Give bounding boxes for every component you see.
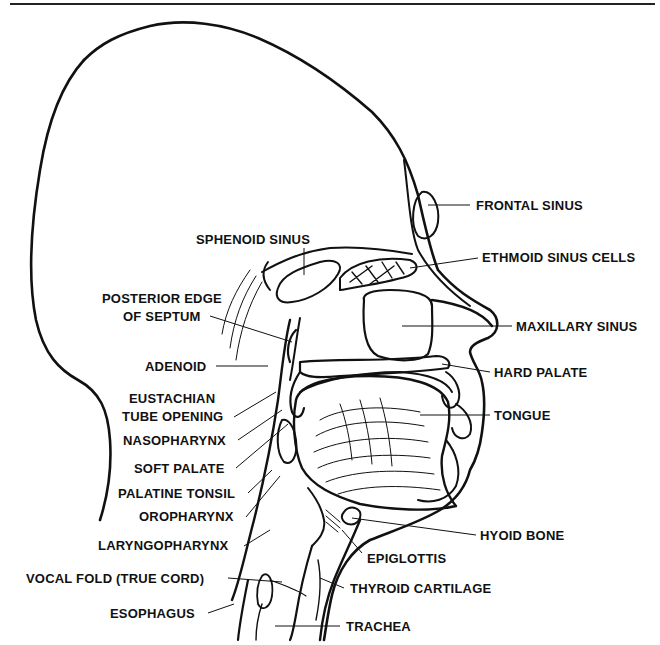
label-frontal-sinus: FRONTAL SINUS [476, 198, 583, 213]
pharynx-posterior-wall [232, 320, 290, 600]
label-hyoid-bone: HYOID BONE [480, 528, 564, 543]
tongue-muscle-fibers [314, 398, 440, 494]
leader-vocal-fold [228, 578, 282, 582]
label-oropharynx: OROPHARYNX [139, 509, 234, 524]
ethmoid-sinus-shape [340, 259, 417, 290]
leader-posterior-septum [210, 316, 292, 342]
label-soft-palate: SOFT PALATE [134, 461, 225, 476]
label-tongue: TONGUE [494, 408, 551, 423]
label-ethmoid-sinus-cells: ETHMOID SINUS CELLS [482, 250, 635, 265]
leader-laryngopharynx [244, 530, 270, 546]
label-vocal-fold: VOCAL FOLD (TRUE CORD) [26, 571, 204, 586]
vocal-fold-shape [257, 574, 272, 608]
leader-eustachian [234, 392, 276, 417]
label-nasopharynx: NASOPHARYNX [123, 433, 226, 448]
tongue-shape [294, 376, 456, 510]
label-posterior-edge-line1: POSTERIOR EDGE [102, 291, 222, 306]
label-epiglottis: EPIGLOTTIS [367, 551, 446, 566]
esophagus-shape [238, 580, 248, 640]
hyoid-bone-shape [342, 508, 360, 525]
label-trachea: TRACHEA [346, 619, 411, 634]
label-eustachian-line2: TUBE OPENING [122, 409, 223, 424]
label-adenoid: ADENOID [145, 359, 206, 374]
sphenoid-sinus-shape [277, 261, 340, 303]
label-hard-palate: HARD PALATE [494, 365, 587, 380]
label-thyroid-cartilage: THYROID CARTILAGE [350, 581, 491, 596]
label-posterior-edge-line2: OF SEPTUM [123, 309, 201, 324]
back-of-head-neck [31, 60, 110, 520]
label-laryngopharynx: LARYNGOPHARYNX [98, 538, 228, 553]
epiglottis-shape [308, 488, 324, 546]
mandible-shape [418, 440, 458, 501]
label-eustachian-line1: EUSTACHIAN [129, 391, 215, 406]
leader-hyoid-bone [352, 518, 476, 535]
maxillary-sinus-shape [364, 290, 433, 360]
leader-soft-palate [236, 424, 288, 468]
leader-esophagus [208, 604, 234, 613]
label-maxillary-sinus: MAXILLARY SINUS [516, 319, 637, 334]
leader-nasopharynx [238, 410, 282, 440]
label-sphenoid-sinus: SPHENOID SINUS [196, 232, 310, 247]
label-palatine-tonsil: PALATINE TONSIL [118, 486, 235, 501]
leader-epiglottis [342, 530, 362, 553]
leader-lines [208, 205, 512, 626]
leader-ethmoid-sinus [410, 258, 478, 268]
label-esophagus: ESOPHAGUS [110, 606, 195, 621]
